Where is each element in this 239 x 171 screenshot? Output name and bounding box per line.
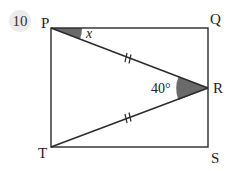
angle-label-40: 40° xyxy=(151,81,171,96)
angle-40-shading xyxy=(176,77,208,100)
line-PR xyxy=(51,28,208,88)
vertex-label-T: T xyxy=(38,145,47,161)
angle-label-x: x xyxy=(85,26,93,41)
vertex-label-S: S xyxy=(211,150,219,166)
question-number: 10 xyxy=(13,13,28,29)
geometry-diagram: 10 P Q R S T x 40° xyxy=(0,0,239,171)
vertex-label-Q: Q xyxy=(210,11,221,27)
vertex-label-P: P xyxy=(41,15,49,31)
vertex-label-R: R xyxy=(213,80,223,96)
equal-mark-PR xyxy=(125,53,131,64)
